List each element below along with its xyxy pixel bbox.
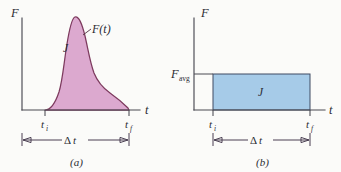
panel-b-label-t-initial: t i xyxy=(209,118,216,133)
panel-a-force-curve: F t F(t) J t i t f Δ t xyxy=(0,0,170,172)
panel-b-label-t-final: t f xyxy=(306,118,314,133)
panel-a-delta-t-dimension: Δ t xyxy=(22,133,129,146)
panel-b-average-force: F t F avg J t i t f Δ xyxy=(170,0,341,172)
panel-a-label-t-final: t f xyxy=(125,118,133,133)
panel-b-delta-t-dimension: Δ t xyxy=(213,133,310,146)
panel-b-x-axis-label: t xyxy=(329,103,333,117)
panel-b-tf-sub: f xyxy=(311,124,314,133)
panel-b-favg-label: F avg xyxy=(170,67,190,83)
panel-a-caption: (a) xyxy=(70,156,83,169)
panel-a-ti-base: t xyxy=(41,118,45,130)
panel-a-y-axis-label: F xyxy=(10,6,19,20)
panel-b-delta-symbol: Δ xyxy=(250,134,257,146)
panel-b-y-axis-label: F xyxy=(200,6,209,20)
panel-b-favg-base: F xyxy=(170,67,179,81)
panel-a-impulse-label: J xyxy=(63,42,69,54)
panel-b-ti-base: t xyxy=(209,118,213,130)
panel-b-favg-sub: avg xyxy=(179,74,190,83)
panel-b-tf-base: t xyxy=(306,118,310,130)
panel-a-delta-var: t xyxy=(73,134,77,146)
panel-b-delta-var: t xyxy=(259,134,263,146)
panel-b-ti-sub: i xyxy=(214,124,216,133)
panel-a-tf-base: t xyxy=(125,118,129,130)
panel-a-x-axis-label: t xyxy=(145,103,149,117)
panel-b-caption: (b) xyxy=(256,156,269,169)
impulse-figure: F t F(t) J t i t f Δ t xyxy=(0,0,341,172)
panel-a-ti-sub: i xyxy=(46,124,48,133)
panel-b-impulse-label: J xyxy=(258,86,264,98)
panel-a-delta-symbol: Δ xyxy=(64,134,71,146)
panel-a-label-t-initial: t i xyxy=(41,118,48,133)
curve-label-ft: F(t) xyxy=(91,22,111,36)
panel-a-tf-sub: f xyxy=(130,124,133,133)
force-curve-area xyxy=(45,17,129,110)
